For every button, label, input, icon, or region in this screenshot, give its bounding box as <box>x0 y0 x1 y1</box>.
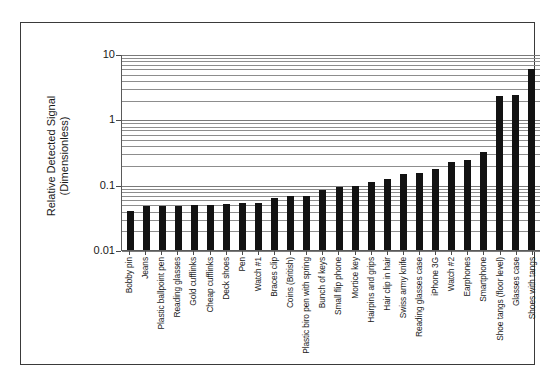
bar[interactable] <box>287 196 294 250</box>
x-axis-tick-slot <box>218 251 234 256</box>
x-axis-label-slot: Pen <box>234 257 250 382</box>
x-axis-label-slot: Glasses case <box>508 257 524 382</box>
bar-slot <box>315 55 331 250</box>
x-axis-tick-mark <box>355 251 356 255</box>
x-axis-tick-label: Watch #2 <box>446 257 456 291</box>
x-axis-tick-slot <box>137 251 153 256</box>
x-axis-tick-slot <box>153 251 169 256</box>
x-axis-tick-mark <box>129 251 130 255</box>
bar-slot <box>492 55 508 250</box>
x-axis-tick-mark <box>403 251 404 255</box>
bar[interactable] <box>271 198 278 250</box>
x-axis-tick-mark <box>322 251 323 255</box>
x-axis-tick-label: Glasses case <box>511 257 521 306</box>
x-axis-label-slot: Gold cufflinks <box>185 257 201 382</box>
bar-slot <box>267 55 283 250</box>
x-axis-tick-slot <box>524 251 540 256</box>
x-axis-label-slot: Deck shoes <box>218 257 234 382</box>
x-axis-tick-slot <box>250 251 266 256</box>
x-axis-tick-mark <box>451 251 452 255</box>
x-axis-tick-mark <box>210 251 211 255</box>
x-axis-label-slot: Coins (British) <box>282 257 298 382</box>
bar[interactable] <box>528 69 535 251</box>
bar[interactable] <box>255 203 262 250</box>
x-axis-tick-label: Jeans <box>140 257 150 279</box>
y-axis-tick-label: 10 <box>63 48 115 60</box>
x-axis-tick-label: Cheap cufflinks <box>205 257 215 313</box>
x-axis-tick-label: Mortice key <box>350 257 360 299</box>
bar[interactable] <box>352 186 359 250</box>
x-axis-tick-mark <box>306 251 307 255</box>
x-axis-label-slot: Reading glasses case <box>411 257 427 382</box>
bar-slot <box>283 55 299 250</box>
bar-slot <box>138 55 154 250</box>
x-axis-tick-slot <box>347 251 363 256</box>
bar-series <box>122 55 540 250</box>
x-axis-label-slot: Shoe tangs (floor level) <box>492 257 508 382</box>
x-axis-tick-slot <box>427 251 443 256</box>
x-axis-label-slot: Plastic ballpoint pen <box>153 257 169 382</box>
y-axis-tick-labels: 1010.10.01 <box>63 55 115 251</box>
bar[interactable] <box>143 206 150 251</box>
x-axis-tick-mark <box>242 251 243 255</box>
bar[interactable] <box>175 206 182 251</box>
x-axis-tick-mark <box>435 251 436 255</box>
x-axis-label-slot: Watch #2 <box>443 257 459 382</box>
x-axis-tick-mark <box>258 251 259 255</box>
x-axis-tick-mark <box>532 251 533 255</box>
bar-slot <box>411 55 427 250</box>
bar[interactable] <box>191 205 198 250</box>
bar-slot <box>186 55 202 250</box>
x-axis-tick-label: Small flip phone <box>333 257 343 315</box>
x-axis-label-slot: Jeans <box>137 257 153 382</box>
x-axis-tick-label: Plastic ballpoint pen <box>156 257 166 329</box>
bar-slot <box>170 55 186 250</box>
x-axis-label-slot: Hair clip in hair <box>379 257 395 382</box>
x-axis-label-slot: Bobby pin <box>121 257 137 382</box>
x-axis-label-slot: Smartphone <box>475 257 491 382</box>
bar[interactable] <box>512 95 519 250</box>
bar-slot <box>524 55 540 250</box>
bar-slot <box>379 55 395 250</box>
x-axis-label-slot: Earphones <box>459 257 475 382</box>
x-axis-tick-label: Bunch of keys <box>317 257 327 308</box>
bar[interactable] <box>464 160 471 250</box>
x-axis-tick-slot <box>121 251 137 256</box>
x-axis-tick-label: Deck shoes <box>221 257 231 300</box>
x-axis-tick-label: Pen <box>237 257 247 272</box>
bar-slot <box>218 55 234 250</box>
x-axis-label-slot: Plastic biro pen with spring <box>298 257 314 382</box>
x-axis-tick-mark <box>177 251 178 255</box>
x-axis-tick-label: Hairpins and grips <box>366 257 376 323</box>
x-axis-label-slot: iPhone 3G <box>427 257 443 382</box>
bar[interactable] <box>432 169 439 250</box>
bar[interactable] <box>207 205 214 250</box>
bar[interactable] <box>303 196 310 250</box>
x-axis-tick-mark <box>500 251 501 255</box>
bar[interactable] <box>127 211 134 250</box>
bar[interactable] <box>384 179 391 250</box>
bar[interactable] <box>416 173 423 250</box>
x-axis-tick-mark <box>419 251 420 255</box>
bar[interactable] <box>223 204 230 250</box>
bar[interactable] <box>400 174 407 250</box>
bar[interactable] <box>159 206 166 251</box>
bar-slot <box>251 55 267 250</box>
x-axis-tick-mark <box>290 251 291 255</box>
bar[interactable] <box>336 187 343 250</box>
bar[interactable] <box>319 190 326 250</box>
bar[interactable] <box>448 162 455 250</box>
x-axis-label-slot: Shoes with tangs <box>524 257 540 382</box>
x-axis-label-slot: Swiss army knife <box>395 257 411 382</box>
bar[interactable] <box>239 203 246 250</box>
bar[interactable] <box>368 182 375 250</box>
x-axis-tick-slot <box>411 251 427 256</box>
bar-slot <box>235 55 251 250</box>
x-axis-tick-label: Braces clip <box>269 257 279 297</box>
bar-slot <box>460 55 476 250</box>
bar-slot <box>202 55 218 250</box>
bar[interactable] <box>496 96 503 250</box>
bar[interactable] <box>480 152 487 250</box>
x-axis-tick-label: iPhone 3G <box>430 257 440 296</box>
y-axis-title-line1: Relative Detected Signal <box>45 61 58 251</box>
